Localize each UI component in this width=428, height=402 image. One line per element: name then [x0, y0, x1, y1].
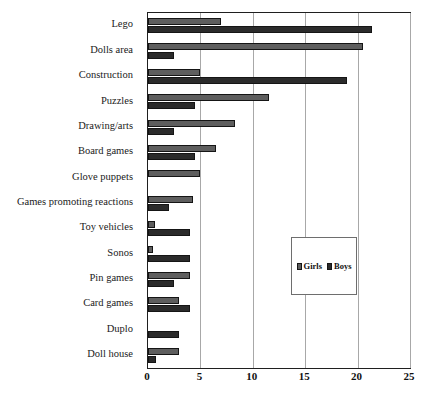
category-label: Lego — [0, 12, 139, 37]
category-axis: LegoDolls areaConstructionPuzzlesDrawing… — [0, 12, 139, 367]
bar-group — [148, 140, 410, 165]
bar-group — [148, 191, 410, 216]
legend-swatch-icon — [297, 263, 302, 270]
bar-group — [148, 13, 410, 38]
category-label: Sonos — [0, 240, 139, 265]
category-label: Games promoting reactions — [0, 190, 139, 215]
legend-swatch-icon — [327, 263, 332, 270]
bar-boys — [148, 77, 347, 84]
legend-entry: Boys — [327, 262, 351, 271]
category-label: Construction — [0, 63, 139, 88]
bar-girls — [148, 170, 200, 177]
category-label: Doll house — [0, 342, 139, 367]
category-label: Pin games — [0, 266, 139, 291]
category-label: Puzzles — [0, 88, 139, 113]
chart-legend: GirlsBoys — [291, 237, 357, 295]
bar-group — [148, 292, 410, 317]
bar-boys — [148, 102, 195, 109]
bar-girls — [148, 120, 235, 127]
category-label: Duplo — [0, 316, 139, 341]
bar-group — [148, 267, 410, 292]
legend-label: Girls — [304, 262, 322, 271]
category-label: Drawing/arts — [0, 113, 139, 138]
x-tick-label: 20 — [351, 371, 362, 382]
bars-layer — [148, 13, 410, 368]
x-tick-label: 25 — [404, 371, 415, 382]
plot-area — [147, 12, 411, 369]
category-label: Board games — [0, 139, 139, 164]
bar-girls — [148, 196, 193, 203]
x-tick-label: 15 — [299, 371, 310, 382]
bar-boys — [148, 128, 174, 135]
bar-boys — [148, 229, 190, 236]
bar-group — [148, 89, 410, 114]
bar-group — [148, 114, 410, 139]
bar-boys — [148, 331, 179, 338]
x-tick-label: 10 — [246, 371, 257, 382]
bar-boys — [148, 280, 174, 287]
bar-girls — [148, 69, 200, 76]
category-label: Card games — [0, 291, 139, 316]
x-tick-label: 5 — [197, 371, 203, 382]
bar-group — [148, 317, 410, 342]
bar-boys — [148, 356, 156, 363]
bar-group — [148, 64, 410, 89]
bar-girls — [148, 145, 216, 152]
bar-boys — [148, 26, 372, 33]
bar-group — [148, 38, 410, 63]
bar-girls — [148, 221, 155, 228]
category-label: Dolls area — [0, 37, 139, 62]
x-axis: 0510152025 — [147, 371, 409, 391]
bar-group — [148, 216, 410, 241]
bar-boys — [148, 204, 169, 211]
bar-girls — [148, 94, 269, 101]
bar-boys — [148, 305, 190, 312]
bar-boys — [148, 52, 174, 59]
bar-chart: LegoDolls areaConstructionPuzzlesDrawing… — [0, 0, 428, 402]
bar-girls — [148, 348, 179, 355]
legend-entry: Girls — [297, 262, 322, 271]
bar-girls — [148, 272, 190, 279]
x-tick-label: 0 — [144, 371, 150, 382]
gridline — [410, 13, 411, 368]
legend-label: Boys — [334, 262, 351, 271]
bar-group — [148, 343, 410, 368]
bar-boys — [148, 153, 195, 160]
bar-group — [148, 241, 410, 266]
bar-girls — [148, 43, 363, 50]
bar-girls — [148, 297, 179, 304]
bar-group — [148, 165, 410, 190]
bar-boys — [148, 255, 190, 262]
category-label: Toy vehicles — [0, 215, 139, 240]
category-label: Glove puppets — [0, 164, 139, 189]
bar-girls — [148, 18, 221, 25]
bar-girls — [148, 246, 153, 253]
